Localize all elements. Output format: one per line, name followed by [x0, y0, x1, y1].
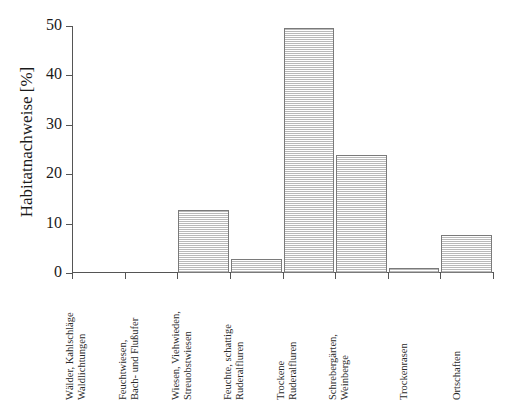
category-label-line: Ruderalfluren: [287, 342, 299, 400]
x-tick: [335, 272, 336, 279]
x-tick: [493, 272, 494, 279]
category-label-line: Ruderalfluren: [234, 324, 246, 400]
category-label-line: Streuobstwiesen: [182, 311, 194, 400]
y-tick-label: 0: [54, 263, 62, 281]
x-tick: [440, 272, 441, 279]
category-label-line: Waldlichtungen: [76, 312, 88, 400]
category-label-line: Ortschaften: [451, 351, 463, 400]
category-label-line: Feuchte, schattige: [222, 324, 234, 400]
y-tick-label: 50: [46, 16, 62, 34]
y-tick-label: 40: [46, 65, 62, 83]
bar: [178, 210, 229, 273]
category-label-line: Weinberge: [339, 334, 351, 400]
x-tick: [230, 272, 231, 279]
plot-area: [72, 26, 493, 273]
y-axis-label: Habitatnachweise [%]: [14, 2, 40, 282]
x-tick: [72, 272, 73, 279]
category-label-line: Bach- und Flußufer: [129, 318, 141, 400]
y-tick-label: 20: [46, 164, 62, 182]
y-tick-label: 10: [46, 214, 62, 232]
category-label-line: Wiesen, Viehwieden,: [170, 311, 182, 400]
x-tick: [283, 272, 284, 279]
y-tick-label: 30: [46, 115, 62, 133]
category-label-line: Trockenrasen: [398, 343, 410, 400]
bar: [441, 235, 492, 273]
category-label-line: Trockene: [275, 342, 287, 400]
bar: [336, 155, 387, 273]
bar: [284, 28, 335, 273]
x-tick: [177, 272, 178, 279]
x-tick: [125, 272, 126, 279]
category-label-line: Schrebergärten,: [327, 334, 339, 400]
bar-chart-figure: Habitatnachweise [%] 01020304050 Wälder,…: [0, 0, 517, 405]
bar: [231, 259, 282, 273]
bar: [389, 268, 440, 273]
category-label-line: Wälder, Kahlschläge: [64, 312, 76, 400]
category-label-line: Feuchtwiesen,: [117, 318, 129, 400]
x-tick: [388, 272, 389, 279]
